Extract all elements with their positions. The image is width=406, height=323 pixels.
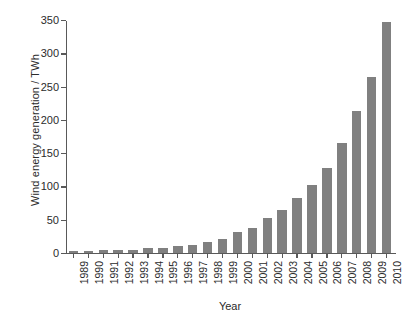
x-tick-mark-1995 [162, 253, 163, 258]
y-tick-mark [61, 153, 66, 154]
x-tick-label-1993: 1993 [138, 261, 150, 284]
y-tick-mark [61, 186, 66, 187]
bar-1994 [143, 248, 153, 253]
x-tick-mark-1994 [147, 253, 148, 258]
y-tick-label: 350 [41, 14, 59, 26]
y-tick-label: 0 [53, 247, 59, 259]
bar-2004 [292, 198, 302, 253]
bar-1996 [173, 246, 183, 253]
x-tick-mark-2002 [267, 253, 268, 258]
x-tick-mark-2000 [237, 253, 238, 258]
x-tick-mark-2001 [252, 253, 253, 258]
x-tick-mark-2005 [311, 253, 312, 258]
x-tick-mark-2010 [386, 253, 387, 258]
x-tick-mark-1990 [88, 253, 89, 258]
x-tick-label-2008: 2008 [361, 261, 373, 284]
x-tick-mark-2007 [341, 253, 342, 258]
x-tick-label-1997: 1997 [197, 261, 209, 284]
y-tick-mark [61, 120, 66, 121]
x-tick-label-2001: 2001 [257, 261, 269, 284]
y-tick-label: 250 [41, 81, 59, 93]
y-tick-label: 150 [41, 147, 59, 159]
bar-2009 [367, 77, 377, 253]
bar-1995 [158, 248, 168, 253]
x-tick-mark-2008 [356, 253, 357, 258]
x-tick-label-1989: 1989 [78, 261, 90, 284]
bar-2007 [337, 143, 347, 254]
x-tick-label-1999: 1999 [227, 261, 239, 284]
x-tick-mark-2009 [371, 253, 372, 258]
x-tick-mark-2003 [282, 253, 283, 258]
bar-1993 [128, 250, 138, 253]
x-tick-label-1994: 1994 [153, 261, 165, 284]
bar-1990 [84, 251, 94, 253]
x-tick-label-2009: 2009 [376, 261, 388, 284]
y-axis-title: Wind energy generation / TWh [26, 10, 44, 250]
x-tick-mark-1989 [73, 253, 74, 258]
y-tick-label: 300 [41, 47, 59, 59]
y-tick-mark [61, 87, 66, 88]
bar-1991 [99, 250, 109, 253]
x-tick-mark-1993 [132, 253, 133, 258]
x-tick-label-1995: 1995 [167, 261, 179, 284]
x-tick-mark-1996 [177, 253, 178, 258]
plot-area: 050100150200250300350 198919901991199219… [66, 20, 394, 253]
x-tick-label-2003: 2003 [287, 261, 299, 284]
y-tick-label: 200 [41, 114, 59, 126]
x-tick-mark-1998 [207, 253, 208, 258]
y-tick-label: 100 [41, 180, 59, 192]
bar-2002 [263, 218, 273, 253]
x-tick-label-2005: 2005 [317, 261, 329, 284]
y-tick-mark [61, 220, 66, 221]
bar-2003 [277, 210, 287, 253]
bar-1999 [218, 239, 228, 253]
y-tick-mark [61, 20, 66, 21]
x-tick-mark-1997 [192, 253, 193, 258]
x-tick-mark-1991 [103, 253, 104, 258]
x-tick-label-1992: 1992 [123, 261, 135, 284]
x-tick-label-1990: 1990 [93, 261, 105, 284]
x-tick-label-2010: 2010 [391, 261, 403, 284]
x-tick-label-1998: 1998 [212, 261, 224, 284]
x-tick-label-2004: 2004 [302, 261, 314, 284]
x-tick-mark-2004 [296, 253, 297, 258]
bar-2001 [248, 228, 258, 253]
x-tick-label-1991: 1991 [108, 261, 120, 284]
x-tick-label-2007: 2007 [346, 261, 358, 284]
bar-2000 [233, 232, 243, 253]
x-tick-label-2002: 2002 [272, 261, 284, 284]
wind-energy-bar-chart: Wind energy generation / TWh 05010015020… [0, 0, 406, 323]
x-tick-label-2000: 2000 [242, 261, 254, 284]
bar-2008 [352, 111, 362, 253]
y-tick-mark [61, 53, 66, 54]
x-tick-mark-2006 [326, 253, 327, 258]
x-axis-title: Year [60, 300, 400, 312]
bar-1989 [69, 251, 79, 253]
bar-1997 [188, 245, 198, 253]
x-tick-label-2006: 2006 [331, 261, 343, 284]
y-tick-mark [61, 253, 66, 254]
bar-2010 [382, 22, 392, 253]
y-tick-label: 50 [47, 214, 59, 226]
bar-2005 [307, 185, 317, 253]
x-tick-mark-1992 [118, 253, 119, 258]
bar-1998 [203, 242, 213, 253]
x-tick-label-1996: 1996 [182, 261, 194, 284]
x-tick-mark-1999 [222, 253, 223, 258]
bar-2006 [322, 168, 332, 253]
bar-1992 [113, 250, 123, 253]
